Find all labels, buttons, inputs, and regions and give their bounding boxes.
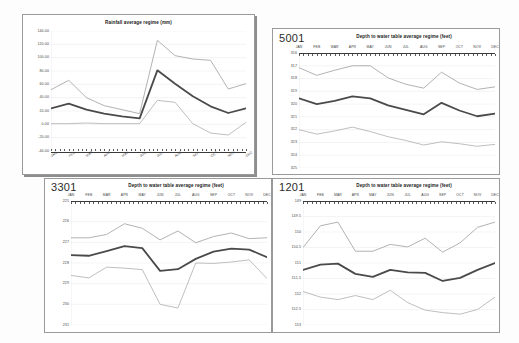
x-tick-label: APR [116, 193, 132, 197]
y-tick-label: 80.00 [25, 69, 49, 73]
axis-ticks [71, 202, 267, 205]
x-tick-label: OCT [451, 45, 467, 49]
x-tick-label: SEP [206, 193, 222, 197]
y-tick-label: 231 [45, 323, 69, 327]
x-tick-label: DEC [487, 193, 503, 197]
x-tick-label: AUG [416, 45, 432, 49]
y-tick-label: 150.5 [277, 245, 301, 249]
y-tick-label: 228 [45, 261, 69, 265]
y-tick-label: 151.5 [277, 276, 301, 280]
axis-ticks [51, 149, 246, 152]
y-tick-label: 227 [45, 240, 69, 244]
y-tick-label: 150 [277, 230, 301, 234]
x-tick-label: NOV [241, 193, 257, 197]
y-tick-label: 322 [273, 127, 297, 131]
chart-title-5001: Depth to water table average regime (fee… [356, 34, 452, 39]
y-tick-label: 152 [277, 292, 301, 296]
y-tick-label: 324 [273, 153, 297, 157]
y-tick-label: 120.00 [25, 42, 49, 46]
x-tick-label: AUG [188, 193, 204, 197]
x-tick-label: JAN [295, 193, 311, 197]
y-tick-label: 60.00 [25, 82, 49, 86]
x-tick-label: NOV [469, 45, 485, 49]
y-tick-label: 321 [273, 115, 297, 119]
y-tick-label: 140.00 [25, 29, 49, 33]
chart-title-3301: Depth to water table average regime (fee… [128, 183, 224, 188]
x-tick-label: MAR [330, 193, 346, 197]
x-tick-label: JUN [380, 45, 396, 49]
y-tick-label: 149 [277, 199, 301, 203]
chart-title-rainfall: Rainfall average regime (mm) [105, 20, 172, 25]
y-tick-label: 152.5 [277, 307, 301, 311]
chart-panel-1201: 1201 Depth to water table average regime… [272, 178, 500, 333]
x-tick-label: JUL [170, 193, 186, 197]
chart-panel-3301: 3301 Depth to water table average regime… [44, 178, 272, 333]
x-tick-label: FEB [309, 45, 325, 49]
x-tick-label: JUL [400, 193, 416, 197]
y-tick-label: 0.00 [25, 122, 49, 126]
x-tick-label: SEP [434, 45, 450, 49]
x-tick-label: JAN [63, 193, 79, 197]
x-tick-label: MAY [362, 45, 378, 49]
y-tick-label: 229 [45, 281, 69, 285]
y-tick-label: 318 [273, 76, 297, 80]
x-tick-label: JUL [398, 45, 414, 49]
x-tick-label: SEP [435, 193, 451, 197]
y-tick-label: 316 [273, 51, 297, 55]
y-tick-label: 225 [45, 199, 69, 203]
axis-ticks [299, 54, 495, 57]
y-tick-label: 319 [273, 89, 297, 93]
plot-area-5001 [299, 53, 495, 168]
chart-title-1201: Depth to water table average regime (fee… [356, 183, 452, 188]
y-tick-label: 325 [273, 166, 297, 170]
y-tick-label: 151 [277, 261, 301, 265]
y-tick-label: 153 [277, 323, 301, 327]
x-tick-label: DEC [245, 150, 253, 158]
x-tick-label: NOV [470, 193, 486, 197]
x-tick-label: OCT [452, 193, 468, 197]
y-tick-label: 20.00 [25, 109, 49, 113]
x-tick-label: FEB [81, 193, 97, 197]
x-tick-label: AUG [417, 193, 433, 197]
axis-ticks [303, 202, 495, 205]
y-tick-label: 149.5 [277, 214, 301, 218]
chart-panel-5001: 5001 Depth to water table average regime… [272, 28, 500, 175]
y-tick-label: 320 [273, 102, 297, 106]
plot-area-rainfall [51, 31, 246, 151]
plot-area-1201 [303, 201, 495, 325]
panel-id-3301: 3301 [51, 181, 77, 193]
y-tick-label: 40.00 [25, 95, 49, 99]
y-tick-label: -20.00 [25, 135, 49, 139]
x-tick-label: OCT [223, 193, 239, 197]
x-tick-label: APR [347, 193, 363, 197]
x-tick-label: MAY [365, 193, 381, 197]
y-tick-label: 226 [45, 219, 69, 223]
y-tick-label: -40.00 [25, 149, 49, 153]
y-tick-label: 230 [45, 302, 69, 306]
x-tick-label: MAR [99, 193, 115, 197]
x-tick-label: MAR [327, 45, 343, 49]
x-tick-label: JAN [291, 45, 307, 49]
x-tick-label: MAY [134, 193, 150, 197]
panel-id-5001: 5001 [279, 32, 305, 44]
y-tick-label: 317 [273, 64, 297, 68]
panel-id-1201: 1201 [279, 181, 305, 193]
chart-panel-rainfall: Rainfall average regime (mm) 140.00120.0… [22, 14, 255, 175]
x-tick-label: JUN [382, 193, 398, 197]
y-tick-label: 323 [273, 140, 297, 144]
x-tick-label: APR [344, 45, 360, 49]
x-tick-label: JUN [152, 193, 168, 197]
plot-area-3301 [71, 201, 267, 325]
x-tick-label: FEB [312, 193, 328, 197]
x-tick-label: DEC [487, 45, 503, 49]
y-tick-label: 100.00 [25, 55, 49, 59]
